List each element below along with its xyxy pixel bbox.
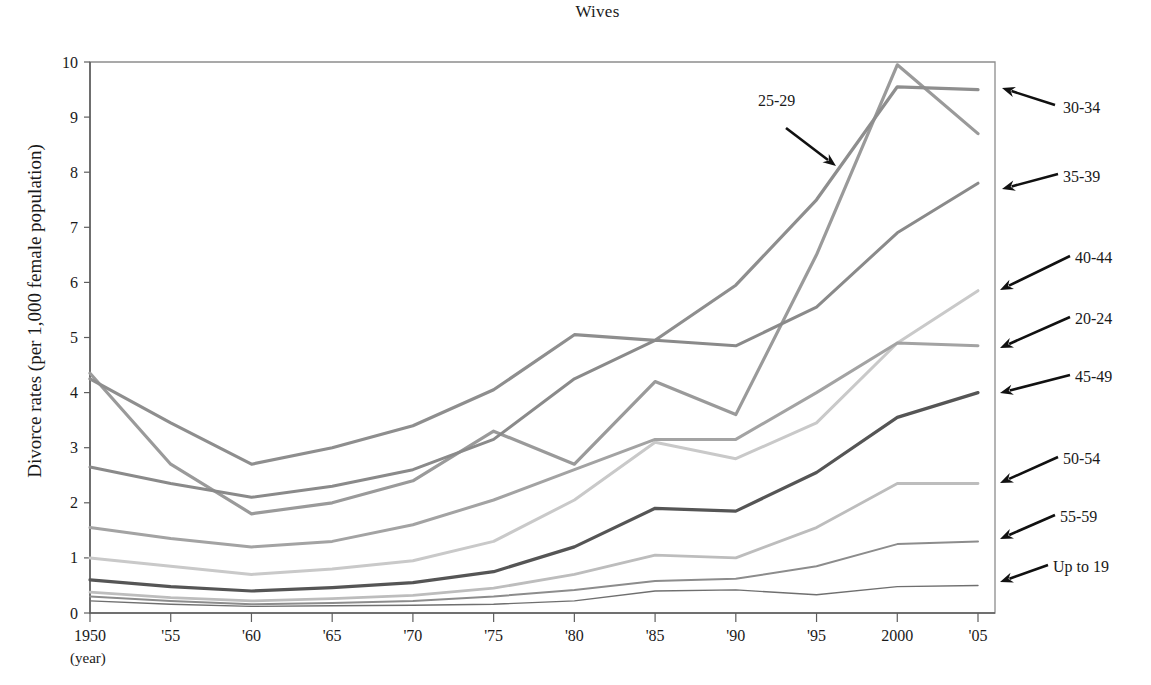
x-tick-label: '85 [646,627,665,644]
annotation-label-40-44: 40-44 [1075,249,1112,267]
y-tick-label: 2 [70,494,78,511]
data-series-group [90,65,978,607]
annotation-label-45-49: 45-49 [1075,368,1112,386]
x-tick-label: '70 [403,627,422,644]
y-tick-label: 6 [70,274,78,291]
x-tick-label: '95 [807,627,826,644]
annotation-label-30-34: 30-34 [1063,99,1100,117]
series-line-20-24 [90,343,978,547]
y-tick-label: 3 [70,439,78,456]
y-tick-label: 10 [62,54,78,71]
y-axis-ticks: 012345678910 [62,54,90,622]
x-tick-label: '75 [484,627,503,644]
annotation-label-up-to-19: Up to 19 [1053,558,1109,576]
y-tick-label: 4 [70,384,78,401]
x-tick-label: '05 [969,627,988,644]
annotation-label-35-39: 35-39 [1063,168,1100,186]
y-tick-label: 9 [70,109,78,126]
series-line-40-44 [90,291,978,575]
annotation-arrows-group [786,87,1070,583]
x-tick-label: 2000 [881,627,913,644]
y-tick-label: 1 [70,549,78,566]
plot-frame [90,62,995,613]
x-tick-label: '80 [565,627,584,644]
annotation-label-50-54: 50-54 [1063,450,1100,468]
x-tick-label: '65 [323,627,342,644]
annotation-label-20-24: 20-24 [1075,310,1112,328]
annotation-label-25-29: 25-29 [758,92,795,110]
chart-root: Wives Divorce rates (per 1,000 female po… [0,0,1151,685]
x-tick-label: '60 [242,627,261,644]
series-line-50-54 [90,484,978,601]
series-line-25-29 [90,65,978,514]
x-tick-label: '55 [161,627,180,644]
line-chart-plot: 012345678910 1950'55'60'65'70'75'80'85'9… [0,0,1151,685]
x-tick-label: '90 [726,627,745,644]
annotation-label-55-59: 55-59 [1060,508,1097,526]
y-tick-label: 0 [70,605,78,622]
x-axis-ticks: 1950'55'60'65'70'75'80'85'90'952000'05 [74,613,987,644]
y-tick-label: 5 [70,329,78,346]
x-tick-label: 1950 [74,627,106,644]
y-tick-label: 8 [70,164,78,181]
y-tick-label: 7 [70,219,78,236]
